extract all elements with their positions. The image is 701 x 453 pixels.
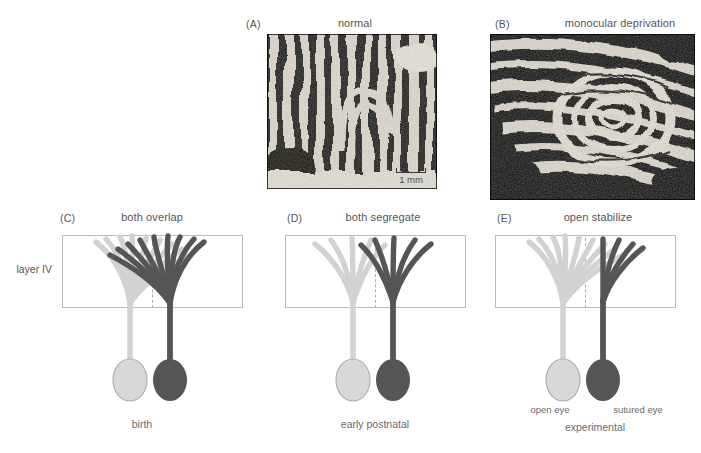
- figure-ocular-dominance: (A) normal: [0, 0, 701, 453]
- panel-e-letter: (E): [497, 212, 512, 224]
- stage-label-experimental: experimental: [520, 421, 670, 433]
- panel-b-letter: (B): [495, 18, 510, 30]
- arbor-pair-c: [40, 228, 260, 408]
- stage-label-birth: birth: [82, 418, 202, 430]
- panel-a-letter: (A): [246, 18, 261, 30]
- panel-b-title: monocular deprivation: [540, 17, 700, 29]
- panel-d-title: both segregate: [318, 211, 448, 223]
- panel-e-title: open stabilize: [533, 211, 663, 223]
- panel-c-letter: (C): [60, 212, 75, 224]
- arbor-pair-d: [263, 228, 483, 408]
- autoradiograph-normal: [267, 34, 437, 189]
- open-eye-label: open eye: [505, 404, 595, 415]
- panel-d-letter: (D): [287, 212, 302, 224]
- stage-label-early-postnatal: early postnatal: [300, 418, 450, 430]
- arbor-pair-e: [473, 228, 693, 408]
- autoradiograph-md-image: [490, 34, 695, 200]
- autoradiograph-monocular-deprivation: [490, 34, 695, 200]
- scale-bar-bracket: [396, 168, 426, 173]
- panel-c-title: both overlap: [92, 211, 212, 223]
- panel-a-title: normal: [300, 17, 410, 29]
- autoradiograph-normal-image: [267, 34, 437, 189]
- sutured-eye-label: sutured eye: [590, 404, 686, 415]
- scale-bar-label: 1 mm: [396, 174, 426, 185]
